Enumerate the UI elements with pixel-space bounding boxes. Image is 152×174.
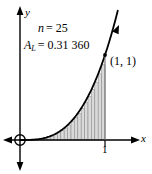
area-value-label: = 0.31 360	[38, 38, 90, 52]
x-axis-label: x	[141, 133, 146, 144]
riemann-rectangle	[78, 113, 81, 140]
riemann-rectangle-group	[34, 65, 105, 140]
riemann-rectangle	[88, 96, 91, 140]
riemann-rectangle	[61, 131, 64, 140]
y-axis-arrow-down	[17, 162, 24, 171]
n-annotation: n= 25	[38, 22, 68, 34]
riemann-rectangle	[91, 90, 94, 140]
x-axis-arrow-left	[3, 137, 12, 144]
riemann-rectangle	[85, 103, 88, 140]
y-axis-label: y	[25, 7, 30, 18]
riemann-rectangle	[81, 108, 84, 140]
riemann-rectangle	[95, 82, 98, 140]
riemann-rectangle	[54, 135, 57, 140]
area-annotation: AL= 0.31 360	[24, 39, 90, 53]
riemann-rectangle	[71, 122, 74, 140]
n-variable-label: n	[38, 21, 44, 35]
n-value-label: = 25	[46, 21, 68, 35]
riemann-rectangle	[98, 74, 101, 140]
riemann-rectangle	[64, 128, 67, 140]
riemann-rectangle	[57, 133, 60, 140]
x-axis-arrow-right	[131, 137, 140, 144]
point-marker-one-one	[103, 53, 107, 57]
area-subscript-label: L	[31, 44, 35, 53]
riemann-rectangle	[74, 118, 77, 140]
riemann-rectangle	[68, 125, 71, 140]
figure-canvas	[0, 0, 152, 174]
y-axis-arrow-up	[17, 6, 24, 15]
point-label-one-one: (1, 1)	[110, 55, 136, 67]
x-tick-label-one: 1	[102, 144, 108, 155]
riemann-sum-figure: y x 1 n= 25 AL= 0.31 360 (1, 1)	[0, 0, 152, 174]
